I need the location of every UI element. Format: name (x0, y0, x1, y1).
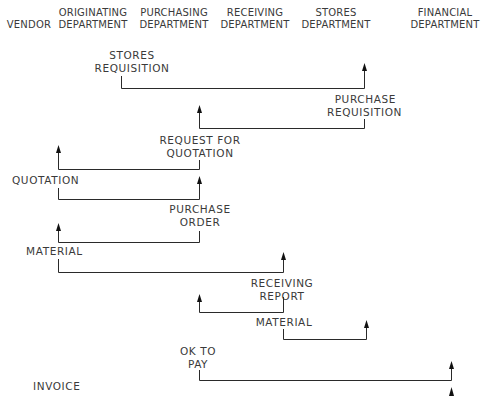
arrow-up-icon (449, 387, 454, 396)
arrow-up-icon (56, 145, 61, 153)
connector-stores-requisition (122, 63, 368, 89)
arrow-up-icon (197, 294, 202, 302)
arrow-up-icon (197, 105, 202, 113)
arrow-up-icon (449, 361, 454, 369)
arrow-up-icon (362, 63, 367, 71)
connector-purchase-order (56, 223, 200, 243)
arrow-up-icon (56, 223, 61, 231)
flow-connectors (0, 0, 494, 396)
connector-purchase-requisition (197, 105, 365, 129)
connector-invoice (449, 387, 454, 396)
connector-receiving-report (197, 294, 284, 313)
arrow-up-icon (197, 176, 202, 184)
arrow-up-icon (364, 320, 369, 328)
connector-request-for-quotation (56, 145, 200, 170)
connector-ok-to-pay (200, 361, 455, 381)
connector-material-receiving (284, 320, 370, 340)
connector-quotation (59, 176, 203, 200)
connector-material-vendor (59, 252, 287, 273)
arrow-up-icon (281, 252, 286, 260)
